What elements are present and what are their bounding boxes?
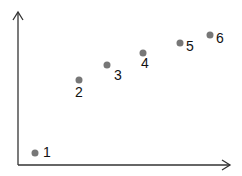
point-marker: [32, 150, 39, 157]
data-point: 5: [177, 38, 195, 54]
point-marker: [207, 32, 214, 39]
data-point: 1: [32, 144, 52, 160]
data-point: 4: [140, 50, 150, 72]
point-label: 1: [43, 144, 51, 160]
data-point: 3: [104, 62, 123, 84]
point-label: 4: [141, 55, 149, 71]
data-points: 123456: [32, 30, 225, 160]
point-label: 6: [216, 30, 224, 46]
point-marker: [177, 40, 184, 47]
point-marker: [104, 62, 111, 69]
point-label: 5: [186, 38, 194, 54]
y-axis: [13, 12, 23, 165]
point-marker: [76, 77, 83, 84]
scatter-chart: 123456: [0, 0, 242, 176]
point-label: 2: [75, 84, 83, 100]
x-axis: [18, 160, 230, 170]
data-point: 6: [207, 30, 225, 46]
data-point: 2: [75, 77, 83, 101]
point-label: 3: [114, 67, 122, 83]
